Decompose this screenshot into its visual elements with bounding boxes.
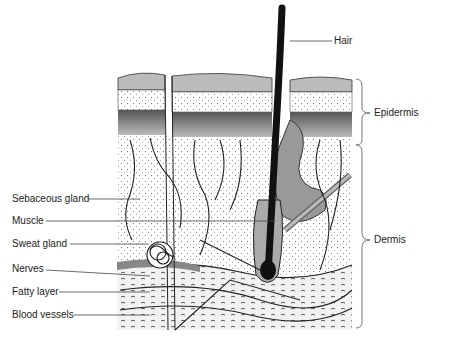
- brace-epidermis: [356, 79, 370, 145]
- label-hair: Hair: [334, 35, 352, 47]
- label-sebaceous-gland: Sebaceous gland: [12, 193, 89, 205]
- label-nerves: Nerves: [12, 263, 44, 275]
- brace-dermis: [356, 145, 370, 328]
- skin-diagram: [0, 0, 456, 337]
- label-sweat-gland: Sweat gland: [12, 238, 67, 250]
- skin-block: [117, 8, 352, 330]
- label-dermis: Dermis: [374, 234, 406, 246]
- label-muscle: Muscle: [12, 215, 44, 227]
- label-blood-vessels: Blood vessels: [12, 309, 74, 321]
- label-fatty-layer: Fatty layer: [12, 286, 59, 298]
- label-epidermis: Epidermis: [374, 107, 418, 119]
